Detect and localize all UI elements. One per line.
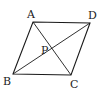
diagonal-bd — [13, 23, 90, 74]
label-a: A — [26, 8, 36, 21]
label-c: C — [70, 78, 78, 91]
geometry-figure: A D P B C — [0, 0, 108, 96]
label-b: B — [3, 75, 11, 88]
label-p: P — [41, 44, 49, 57]
label-d: D — [88, 9, 97, 22]
